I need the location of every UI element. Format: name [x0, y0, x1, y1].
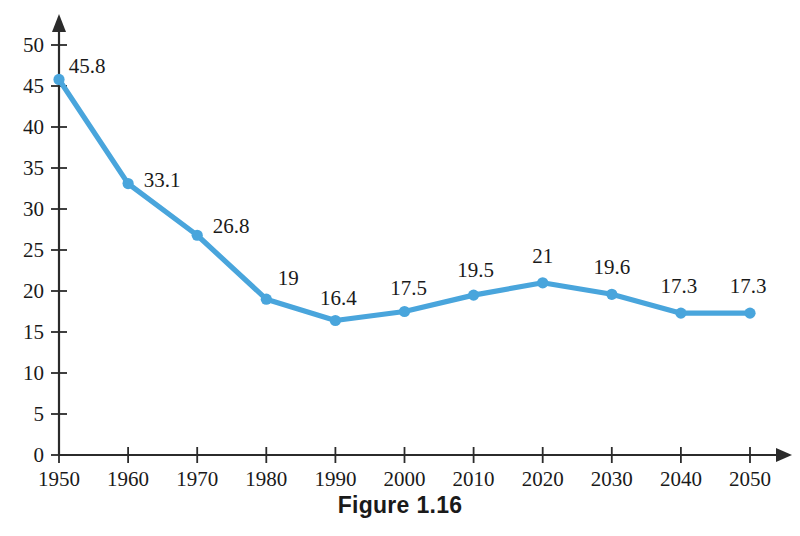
data-value-label: 45.8 [69, 54, 106, 78]
y-axis-arrow [52, 14, 66, 32]
data-point-marker [744, 308, 755, 319]
y-tick-label: 10 [23, 361, 44, 385]
data-point-marker [537, 277, 548, 288]
y-tick-label: 45 [23, 74, 44, 98]
data-value-label: 26.8 [213, 214, 250, 238]
data-point-marker [123, 178, 134, 189]
data-value-label: 19 [278, 266, 299, 290]
x-axis-ticks: 1950196019701980199020002010202020302040… [38, 447, 771, 490]
data-point-marker [330, 315, 341, 326]
y-tick-label: 5 [34, 402, 45, 426]
data-value-label: 21 [532, 244, 553, 268]
y-tick-label: 25 [23, 238, 44, 262]
data-point-marker [261, 294, 272, 305]
x-tick-label: 1970 [176, 467, 218, 490]
x-tick-label: 1980 [245, 467, 287, 490]
data-value-label: 17.5 [390, 276, 427, 300]
data-value-label: 19.5 [457, 258, 494, 282]
x-tick-label: 1950 [38, 467, 80, 490]
data-value-label: 17.3 [730, 274, 767, 298]
x-tick-label: 2050 [729, 467, 771, 490]
y-axis-ticks: 05101520253035404550 [23, 33, 67, 467]
x-tick-label: 2040 [660, 467, 702, 490]
y-tick-label: 40 [23, 115, 44, 139]
y-tick-label: 35 [23, 156, 44, 180]
data-point-marker [53, 74, 64, 85]
y-tick-label: 20 [23, 279, 44, 303]
x-tick-label: 2010 [453, 467, 495, 490]
y-tick-label: 50 [23, 33, 44, 57]
x-tick-label: 2020 [522, 467, 564, 490]
y-tick-label: 0 [34, 443, 45, 467]
figure-caption: Figure 1.16 [0, 492, 800, 519]
x-tick-label: 2030 [591, 467, 633, 490]
data-value-label: 16.4 [320, 286, 357, 310]
y-tick-label: 15 [23, 320, 44, 344]
x-tick-label: 1960 [107, 467, 149, 490]
x-tick-label: 2000 [384, 467, 426, 490]
data-point-marker [606, 289, 617, 300]
data-value-labels: 45.833.126.81916.417.519.52119.617.317.3 [69, 54, 767, 309]
data-value-label: 17.3 [661, 274, 698, 298]
y-tick-label: 30 [23, 197, 44, 221]
figure-container: 05101520253035404550 1950196019701980199… [0, 0, 800, 536]
data-point-marker [675, 308, 686, 319]
data-value-label: 33.1 [144, 168, 181, 192]
x-tick-label: 1990 [314, 467, 356, 490]
data-value-label: 19.6 [593, 255, 630, 279]
data-point-marker [399, 306, 410, 317]
axes [52, 14, 792, 462]
x-axis-arrow [776, 448, 792, 462]
line-chart: 05101520253035404550 1950196019701980199… [0, 0, 800, 490]
data-point-marker [192, 230, 203, 241]
data-point-marker [468, 290, 479, 301]
